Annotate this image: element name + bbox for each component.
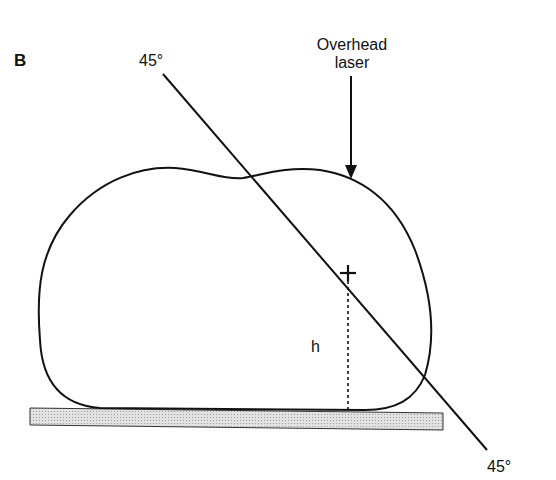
- diagram-canvas: [0, 0, 556, 480]
- laser-label-line2: laser: [310, 54, 394, 72]
- laser-label-line1: Overhead: [310, 36, 394, 54]
- laser-beam-45: [163, 74, 487, 450]
- height-label: h: [311, 338, 320, 356]
- panel-label: B: [14, 52, 26, 70]
- body-outline: [39, 168, 431, 410]
- angle-top-label: 45°: [139, 52, 163, 70]
- angle-bottom-label: 45°: [487, 458, 511, 476]
- table-surface: [30, 408, 443, 430]
